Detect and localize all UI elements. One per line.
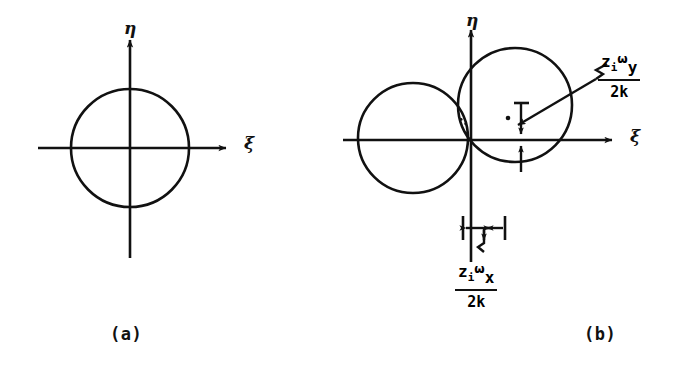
figure-root: η ξ η ξ ziωy 2k ziωx 2k (a) (b) — [0, 0, 685, 377]
panel-b-left-circle — [358, 83, 468, 193]
figure-canvas — [0, 0, 685, 377]
horizontal-offset-denominator: 2k — [455, 292, 497, 311]
vertical-offset-formula: ziωy 2k — [598, 52, 640, 101]
panel-a-graphic — [38, 40, 226, 258]
vertical-offset-denominator: 2k — [598, 82, 640, 101]
vertical-offset-numerator: ziωy — [598, 52, 640, 78]
panel-a-caption: (a) — [110, 326, 142, 343]
panel-a-eta-label: η — [124, 20, 136, 37]
fraction-bar — [598, 79, 640, 81]
panel-b-right-circle — [458, 48, 572, 162]
fraction-bar — [455, 289, 497, 291]
panel-b-eta-label: η — [466, 12, 478, 29]
panel-b-center-dot — [506, 116, 511, 121]
panel-b-xi-label: ξ — [630, 128, 640, 145]
horizontal-offset-formula: ziωx 2k — [455, 262, 497, 311]
panel-a-xi-label: ξ — [244, 135, 254, 152]
horizontal-offset-numerator: ziωx — [455, 262, 497, 288]
panel-b-graphic — [343, 30, 612, 262]
panel-b-caption: (b) — [584, 326, 616, 343]
panel-b-horizontal-dimension — [463, 216, 505, 252]
